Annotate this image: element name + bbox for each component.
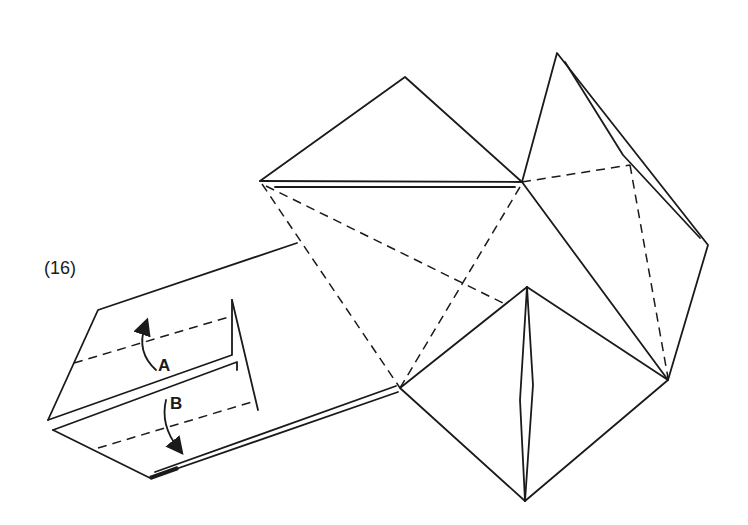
top-triangle [260,77,522,187]
valley-fold-lines [262,184,520,388]
bottom-diamond [400,287,668,501]
left-strip [48,243,398,478]
right-flap [522,53,708,380]
diagram-canvas [0,0,748,525]
fold-arrow-a-icon [142,326,156,370]
